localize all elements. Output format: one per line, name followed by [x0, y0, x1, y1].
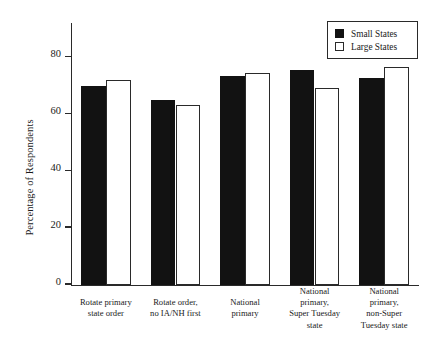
filled-square-icon — [335, 29, 344, 38]
legend-label-small-states: Small States — [351, 29, 397, 39]
y-axis-tick-label: 80 — [51, 48, 62, 59]
bar-chart: Percentage of Respondents 020406080 Rota… — [0, 0, 426, 348]
bar-large-states — [106, 80, 131, 285]
x-axis-category-label: National primary, non-Super Tuesday stat… — [343, 286, 425, 331]
y-axis-tick: 0 — [65, 283, 71, 284]
bar-small-states — [220, 76, 245, 285]
y-axis-line — [71, 23, 72, 286]
bar-group — [81, 24, 131, 285]
y-axis-tick-label: 0 — [56, 276, 61, 287]
bar-small-states — [359, 78, 384, 284]
y-axis-title: Percentage of Respondents — [24, 78, 35, 278]
y-axis-tick: 60 — [65, 113, 71, 114]
bar-small-states — [151, 100, 176, 285]
bar-large-states — [176, 105, 201, 284]
legend-label-large-states: Large States — [351, 42, 397, 52]
outlined-square-icon — [335, 42, 344, 51]
y-axis-tick: 20 — [65, 226, 71, 227]
bar-large-states — [384, 67, 409, 285]
legend-item-small-states: Small States — [335, 27, 410, 40]
bar-group — [220, 24, 270, 285]
y-axis-tick: 80 — [65, 56, 71, 57]
legend: Small States Large States — [327, 21, 418, 59]
y-axis-tick: 40 — [65, 170, 71, 171]
y-axis-tick-label: 60 — [51, 105, 62, 116]
bar-group — [290, 24, 340, 285]
y-axis-tick-label: 20 — [51, 219, 62, 230]
bar-small-states — [81, 86, 106, 285]
plot-area: 020406080 — [71, 23, 419, 286]
bar-large-states — [245, 73, 270, 285]
legend-item-large-states: Large States — [335, 40, 410, 53]
bar-small-states — [290, 70, 315, 285]
y-axis-tick-label: 40 — [51, 162, 62, 173]
bar-large-states — [315, 88, 340, 284]
bar-group — [359, 24, 409, 285]
bar-group — [151, 24, 201, 285]
